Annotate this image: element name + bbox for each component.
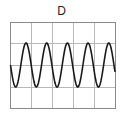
oscilloscope-display (0, 0, 123, 120)
